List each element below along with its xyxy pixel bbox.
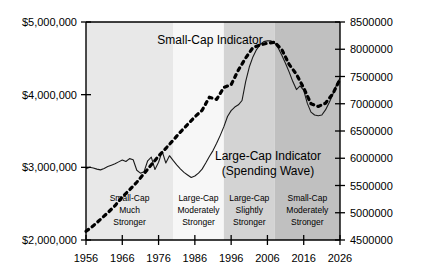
era-band-label-4: Small-CapModeratelyStronger [286, 193, 329, 227]
era-band-label-line: Much [119, 205, 140, 215]
right-axis-tick-label: 5500000 [350, 180, 393, 192]
right-axis-tick-label: 8500000 [350, 16, 393, 28]
era-band-label-line: Moderately [177, 205, 220, 215]
left-axis-tick-label: $4,000,000 [22, 89, 77, 101]
x-axis-tick-label: 2006 [255, 252, 279, 264]
era-band-label-line: Small-Cap [287, 193, 327, 203]
era-band-label-line: Stronger [182, 217, 215, 227]
x-axis-tick-label: 1996 [219, 252, 243, 264]
large-cap-indicator-label: Large-Cap Indicator [215, 149, 321, 163]
chart-container: Small-CapMuchStrongerLarge-CapModerately… [0, 0, 424, 280]
x-axis-tick-label: 2016 [291, 252, 315, 264]
x-axis-tick-label: 2026 [328, 252, 352, 264]
right-axis-tick-label: 6000000 [350, 152, 393, 164]
x-axis-tick-label: 1956 [74, 252, 98, 264]
era-band-label-line: Stronger [113, 217, 146, 227]
right-axis-tick-label: 8000000 [350, 43, 393, 55]
left-axis-tick-label: $2,000,000 [22, 234, 77, 246]
era-band-label-2: Large-CapModeratelyStronger [177, 193, 220, 227]
right-axis-tick-label: 4500000 [350, 234, 393, 246]
x-axis-tick-label: 1966 [110, 252, 134, 264]
x-axis-tick-label: 1976 [146, 252, 170, 264]
era-band-label-line: Moderately [286, 205, 329, 215]
large-cap-indicator-sublabel: (Spending Wave) [222, 164, 314, 178]
x-axis-tick-label: 1986 [183, 252, 207, 264]
right-axis-tick-label: 5000000 [350, 207, 393, 219]
era-band-label-line: Stronger [233, 217, 266, 227]
right-axis-tick-label: 7000000 [350, 98, 393, 110]
era-band-label-line: Large-Cap [229, 193, 269, 203]
small-cap-indicator-label: Small-Cap Indicator [157, 33, 262, 47]
right-axis-tick-label: 7500000 [350, 71, 393, 83]
right-axis-tick-label: 6500000 [350, 125, 393, 137]
left-axis-tick-label: $5,000,000 [22, 16, 77, 28]
era-band-label-line: Stronger [291, 217, 324, 227]
left-axis-tick-label: $3,000,000 [22, 161, 77, 173]
era-band-label-line: Large-Cap [178, 193, 218, 203]
indicator-line-chart: Small-CapMuchStrongerLarge-CapModerately… [0, 0, 424, 280]
era-band-label-line: Slightly [236, 205, 264, 215]
era-band-label-line: Small-Cap [110, 193, 150, 203]
